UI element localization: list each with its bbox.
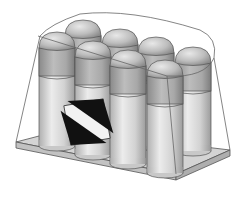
front-can-3 (147, 60, 183, 178)
pack-drawing (0, 0, 249, 210)
aerosol-pack-illustration (0, 0, 249, 210)
